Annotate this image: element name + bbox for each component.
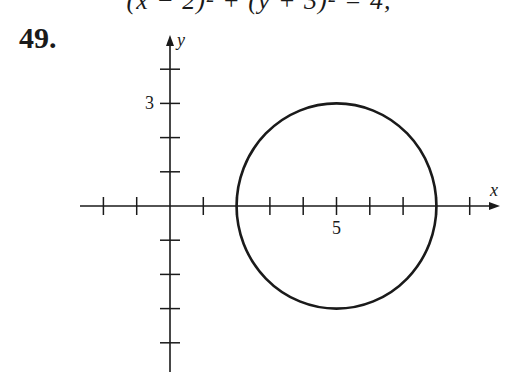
x-tick-label: 5 [332, 218, 341, 238]
x-axis-arrow-icon [489, 202, 500, 210]
coordinate-plot: 53xy [0, 0, 518, 383]
y-axis-arrow-icon [166, 35, 174, 46]
y-axis-label: y [175, 30, 185, 50]
x-axis-label: x [489, 180, 498, 200]
y-tick-label: 3 [145, 93, 154, 113]
